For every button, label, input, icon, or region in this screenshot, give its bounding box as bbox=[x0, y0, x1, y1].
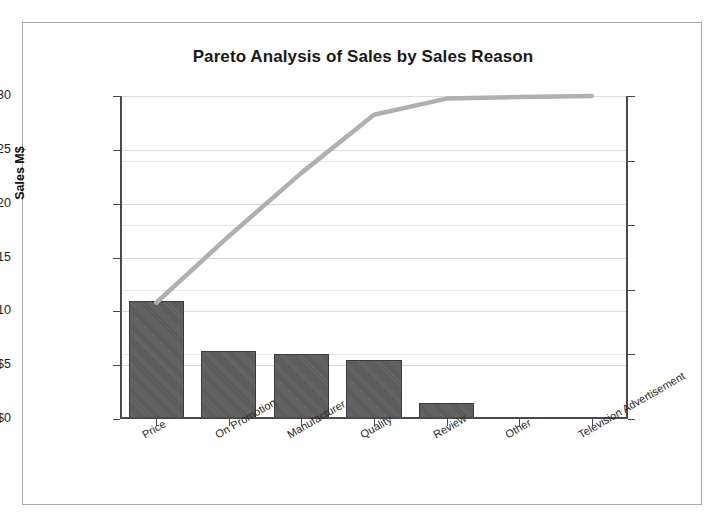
y-tick-label-left: $5 bbox=[0, 357, 11, 371]
x-axis-category-label: Price bbox=[140, 417, 168, 440]
y-tick-right bbox=[628, 354, 635, 355]
chart-title: Pareto Analysis of Sales by Sales Reason bbox=[23, 47, 703, 67]
y-tick-right bbox=[628, 161, 635, 162]
x-axis-category-label: Review bbox=[431, 412, 468, 440]
y-tick-left bbox=[113, 258, 120, 259]
chart-screenshot: Pareto Analysis of Sales by Sales Reason… bbox=[0, 0, 723, 522]
y-tick-label-left: $30 bbox=[0, 88, 11, 102]
y-tick-left bbox=[113, 150, 120, 151]
x-axis-category-label: On Promotion bbox=[213, 396, 278, 440]
y-tick-label-left: $20 bbox=[0, 196, 11, 210]
y-tick-left bbox=[113, 204, 120, 205]
y-axis-label: Sales M$ bbox=[13, 113, 27, 233]
y-tick-left bbox=[113, 311, 120, 312]
plot-area: $0$5$10$15$20$25$300 %20 %40 %60 %80 %10… bbox=[120, 96, 628, 419]
x-axis-category-label: Television Advertisement bbox=[576, 369, 687, 440]
y-tick-right bbox=[628, 225, 635, 226]
y-tick-left bbox=[113, 96, 120, 97]
y-tick-label-left: $0 bbox=[0, 411, 11, 425]
y-tick-label-left: $10 bbox=[0, 303, 11, 317]
x-axis-category-label: Other bbox=[503, 416, 533, 440]
y-tick-left bbox=[113, 419, 120, 420]
x-axis-category-label: Manufacturer bbox=[285, 398, 347, 441]
y-tick-right bbox=[628, 290, 635, 291]
y-tick-label-left: $25 bbox=[0, 142, 11, 156]
x-axis-category-label: Quality bbox=[358, 413, 394, 441]
y-tick-right bbox=[628, 419, 635, 420]
y-tick-right bbox=[628, 96, 635, 97]
y-tick-label-left: $15 bbox=[0, 250, 11, 264]
x-axis-labels: PriceOn PromotionManufacturerQualityRevi… bbox=[120, 96, 628, 419]
y-tick-left bbox=[113, 365, 120, 366]
chart-frame: Pareto Analysis of Sales by Sales Reason… bbox=[22, 22, 702, 505]
